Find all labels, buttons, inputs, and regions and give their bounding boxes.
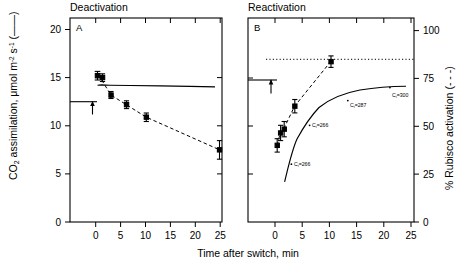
data-point-error-bar bbox=[292, 100, 297, 113]
panel-a-x-tick-labels: 0 5 10 15 20 25 bbox=[93, 230, 226, 241]
svg-text:Ci=300: Ci=300 bbox=[392, 92, 408, 99]
data-point-error-bar bbox=[144, 113, 149, 122]
data-point-error-bar bbox=[328, 56, 333, 68]
panel-b-label: B bbox=[254, 22, 260, 33]
x-tick-label: 25 bbox=[405, 230, 417, 241]
y-tick-label: 0 bbox=[423, 217, 429, 228]
ci-label-lower: Ci=266 bbox=[291, 161, 311, 168]
x-tick-label: 0 bbox=[93, 230, 99, 241]
panel-b-y-axis-label: % Rubisco activation (- - -) bbox=[443, 66, 455, 190]
panel-a-solid-curve bbox=[98, 85, 216, 87]
panel-a-label: A bbox=[76, 22, 83, 33]
y-tick-label: 0 bbox=[55, 217, 61, 228]
x-tick-label: 10 bbox=[324, 230, 336, 241]
x-tick-label: 10 bbox=[140, 230, 152, 241]
x-tick-label: 25 bbox=[215, 230, 227, 241]
x-tick-label: 0 bbox=[272, 230, 278, 241]
y-tick-label: 5 bbox=[55, 168, 61, 179]
panel-b-bottom-ticks bbox=[275, 222, 411, 227]
svg-text:Ci=287: Ci=287 bbox=[350, 102, 366, 109]
y-tick-label: 75 bbox=[423, 73, 435, 84]
figure-svg: Deactivation A 0 5 10 15 20 bbox=[0, 0, 459, 265]
ci-label-300: Ci=300 bbox=[389, 87, 408, 100]
panel-b-title: Reactivation bbox=[248, 1, 306, 13]
panel-b-data-points bbox=[275, 56, 334, 152]
svg-text:Ci=266: Ci=266 bbox=[294, 161, 310, 168]
ci-label-mid: Ci=266 bbox=[309, 122, 329, 129]
x-tick-label: 20 bbox=[378, 230, 390, 241]
panel-a-title: Deactivation bbox=[70, 1, 128, 13]
x-tick-label: 15 bbox=[351, 230, 363, 241]
figure-container: Deactivation A 0 5 10 15 20 bbox=[0, 0, 459, 265]
y-tick-label: 25 bbox=[423, 169, 435, 180]
data-point-error-bar bbox=[95, 71, 101, 80]
data-point-error-bar bbox=[217, 141, 222, 160]
panel-b-switch-marker bbox=[248, 79, 277, 93]
y-tick-label: 50 bbox=[423, 121, 435, 132]
data-point-error-bar bbox=[100, 74, 105, 82]
panel-b-right-ticks bbox=[414, 31, 419, 222]
y-tick-label: 10 bbox=[50, 120, 62, 131]
y-tick-label: 100 bbox=[423, 25, 440, 36]
x-axis-label: Time after switch, min bbox=[197, 247, 299, 259]
panel-b-dashed-curve bbox=[277, 61, 331, 145]
panel-a: Deactivation A 0 5 10 15 20 bbox=[7, 1, 226, 241]
panel-a-bottom-ticks bbox=[96, 222, 221, 227]
panel-b-plot-frame bbox=[248, 18, 414, 222]
svg-text:Ci=266: Ci=266 bbox=[312, 122, 328, 129]
panel-b-top-ticks bbox=[275, 18, 411, 23]
panel-b-left-ticks bbox=[248, 78, 253, 174]
x-tick-label: 15 bbox=[165, 230, 177, 241]
panel-a-top-ticks bbox=[96, 18, 221, 23]
panel-a-switch-marker bbox=[70, 101, 97, 115]
panel-a-data-points bbox=[95, 71, 222, 159]
panel-a-y-ticks bbox=[65, 30, 70, 223]
data-point-error-bar bbox=[108, 92, 113, 99]
panel-b-ci-labels: Ci=266 Ci=266 Ci=287 Ci=300 bbox=[291, 87, 409, 169]
y-tick-label: 15 bbox=[50, 72, 62, 83]
x-tick-label: 5 bbox=[299, 230, 305, 241]
x-tick-label: 5 bbox=[118, 230, 124, 241]
panel-a-y-tick-labels: 0 5 10 15 20 bbox=[50, 24, 62, 228]
x-tick-label: 20 bbox=[190, 230, 202, 241]
panel-a-y-axis-label: CO2 assimilation, μmol m-2 s-1 (——) bbox=[7, 11, 20, 180]
data-point-error-bar bbox=[124, 101, 129, 109]
panel-b-solid-curve bbox=[285, 86, 406, 182]
panel-b: Reactivation B 0 5 10 15 20 25 bbox=[248, 1, 455, 241]
panel-b-y-tick-labels: 0 25 50 75 100 bbox=[423, 25, 440, 227]
ci-label-287: Ci=287 bbox=[347, 100, 367, 110]
panel-b-x-tick-labels: 0 5 10 15 20 25 bbox=[272, 230, 417, 241]
y-tick-label: 20 bbox=[50, 24, 62, 35]
